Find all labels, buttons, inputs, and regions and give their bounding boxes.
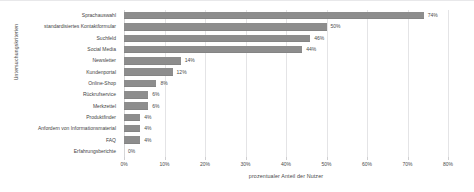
bar <box>124 46 302 53</box>
x-tick-mark <box>327 157 328 160</box>
bar-row: 74% <box>124 10 448 21</box>
bar-value-label: 44% <box>306 47 316 52</box>
bar-row: 46% <box>124 33 448 44</box>
bar-row: 4% <box>124 112 448 123</box>
category-label: Online-Shop <box>88 78 116 89</box>
bar-row: 6% <box>124 100 448 111</box>
category-label: FAQ <box>106 134 116 145</box>
x-tick-mark <box>205 157 206 160</box>
x-axis-ticks: 0%10%20%30%40%50%60%70%80% <box>124 158 448 168</box>
bar-row: 6% <box>124 89 448 100</box>
bar <box>124 91 148 98</box>
bar <box>124 114 140 121</box>
bar-value-label: 12% <box>177 70 187 75</box>
bar-value-label: 46% <box>314 36 324 41</box>
x-tick-mark <box>408 157 409 160</box>
bar-row: 8% <box>124 78 448 89</box>
x-tick-mark <box>246 157 247 160</box>
bar-value-label: 4% <box>144 138 151 143</box>
x-tick-label: 30% <box>240 161 250 167</box>
bar-chart: Untersuchungskriterien Sprachauswahlstan… <box>0 0 474 192</box>
category-label: Newsletter <box>92 55 116 66</box>
bar-row: 4% <box>124 123 448 134</box>
category-label: Sprachauswahl <box>82 10 116 21</box>
x-tick-label: 10% <box>159 161 169 167</box>
bar-value-label: 4% <box>144 115 151 120</box>
x-tick-mark <box>165 157 166 160</box>
category-label: Merkzettel <box>93 100 116 111</box>
x-tick-label: 0% <box>120 161 127 167</box>
bar-row: 12% <box>124 67 448 78</box>
bar <box>124 12 424 19</box>
x-tick-mark <box>367 157 368 160</box>
bar-value-label: 6% <box>152 104 159 109</box>
category-label: Rückrufservice <box>83 89 116 100</box>
x-tick-mark <box>448 157 449 160</box>
bar-value-label: 74% <box>428 13 438 18</box>
bar-value-label: 0% <box>128 149 135 154</box>
bar <box>124 125 140 132</box>
bar-row: 4% <box>124 134 448 145</box>
bar <box>124 57 181 64</box>
bar-value-label: 8% <box>160 81 167 86</box>
x-tick-mark <box>124 157 125 160</box>
bar-series: 74%50%46%44%14%12%8%6%6%4%4%4%0% <box>124 10 448 157</box>
x-axis-title: prozentualer Anteil der Nutzer <box>124 173 448 179</box>
bar <box>124 136 140 143</box>
category-label: Anfordern von Informationsmaterial <box>38 123 116 134</box>
x-tick-label: 50% <box>321 161 331 167</box>
bar-row: 50% <box>124 21 448 32</box>
bar-value-label: 4% <box>144 126 151 131</box>
x-tick-label: 80% <box>443 161 453 167</box>
x-tick-mark <box>286 157 287 160</box>
bar <box>124 68 173 75</box>
bar-row: 44% <box>124 44 448 55</box>
x-tick-label: 70% <box>402 161 412 167</box>
category-label: Kundenportal <box>86 67 116 78</box>
bar <box>124 80 156 87</box>
bar <box>124 102 148 109</box>
category-label: Erfahrungsberichte <box>74 146 116 157</box>
bar <box>124 23 327 30</box>
gridline-80 <box>448 10 449 157</box>
x-tick-label: 20% <box>200 161 210 167</box>
bar-value-label: 6% <box>152 92 159 97</box>
category-label: Social Media <box>87 44 116 55</box>
bar-row: 0% <box>124 146 448 157</box>
category-axis-labels: Sprachauswahlstandardisiertes Kontaktfor… <box>0 10 120 157</box>
bar-value-label: 14% <box>185 58 195 63</box>
plot-area: 74%50%46%44%14%12%8%6%6%4%4%4%0% <box>124 10 448 157</box>
bar <box>124 35 310 42</box>
x-tick-label: 40% <box>281 161 291 167</box>
bar-row: 14% <box>124 55 448 66</box>
category-label: standardisiertes Kontaktformular <box>44 21 116 32</box>
category-label: Suchfeld <box>97 33 116 44</box>
x-tick-label: 60% <box>362 161 372 167</box>
category-label: Produktfinder <box>86 112 116 123</box>
bar-value-label: 50% <box>331 24 341 29</box>
